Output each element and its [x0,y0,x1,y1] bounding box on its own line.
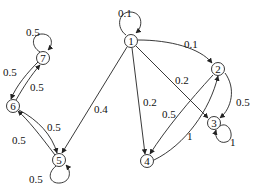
edge-2-3: 0.5 [220,73,250,118]
edge-2-4: 0.5 [150,75,213,154]
node-label-7: 7 [40,52,46,64]
edge-label-1-3: 0.2 [175,74,189,86]
edge-7-7: 0.5 [26,26,51,52]
edge-1-5: 0.4 [62,47,127,153]
edge-label-1-2: 0.1 [184,38,198,50]
node-label-1: 1 [128,35,134,47]
edge-1-1: 0.1 [118,7,141,35]
node-label-6: 6 [10,100,16,112]
node-4: 4 [141,155,154,168]
node-1: 1 [125,35,138,48]
node-label-5: 5 [56,154,62,166]
edge-label-2-3: 0.5 [236,96,250,108]
node-2: 2 [212,63,225,76]
edge-label-5-6: 0.5 [12,134,26,146]
node-5: 5 [53,154,66,167]
edge-label-7-7: 0.5 [26,26,40,38]
edge-label-5-5: 0.5 [29,173,43,185]
edge-label-1-5: 0.4 [94,103,108,115]
diagram-svg: 0.1 0.1 0.2 0.2 0.4 0.5 0.5 1 [0,0,253,189]
edge-label-2-4: 0.5 [162,108,176,120]
edge-label-1-1: 0.1 [118,7,132,19]
edge-label-4-2: 1 [187,130,193,142]
node-7: 7 [37,52,50,65]
edge-label-3-3: 1 [230,136,236,148]
node-label-2: 2 [215,63,221,75]
node-3: 3 [208,117,221,130]
edge-3-3: 1 [216,125,236,148]
edge-6-5: 0.5 [19,110,61,153]
edge-label-7-6: 0.5 [3,66,17,78]
edge-label-6-7: 0.5 [30,81,44,93]
state-transition-diagram: 0.1 0.1 0.2 0.2 0.4 0.5 0.5 1 [0,0,253,189]
edge-label-1-4: 0.2 [143,96,157,108]
edge-5-6: 0.5 [12,111,55,155]
edge-5-5: 0.5 [29,165,69,185]
node-label-4: 4 [144,155,150,167]
edge-1-4: 0.2 [132,48,157,154]
node-label-3: 3 [211,117,217,129]
node-6: 6 [7,100,20,113]
edge-label-6-5: 0.5 [47,121,61,133]
